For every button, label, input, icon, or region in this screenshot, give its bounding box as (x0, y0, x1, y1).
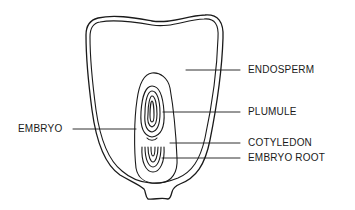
label-endosperm: ENDOSPERM (248, 64, 314, 75)
label-embryo-root: EMBRYO ROOT (248, 152, 325, 163)
label-plumule: PLUMULE (248, 106, 297, 117)
label-embryo: EMBRYO (18, 123, 62, 134)
embryo-outline (135, 73, 178, 183)
seed-coat-inner (90, 19, 218, 183)
root-loops (142, 147, 164, 172)
label-cotyledon: COTYLEDON (248, 137, 312, 148)
plumule-loops (141, 86, 164, 140)
seed-diagram (0, 0, 355, 210)
